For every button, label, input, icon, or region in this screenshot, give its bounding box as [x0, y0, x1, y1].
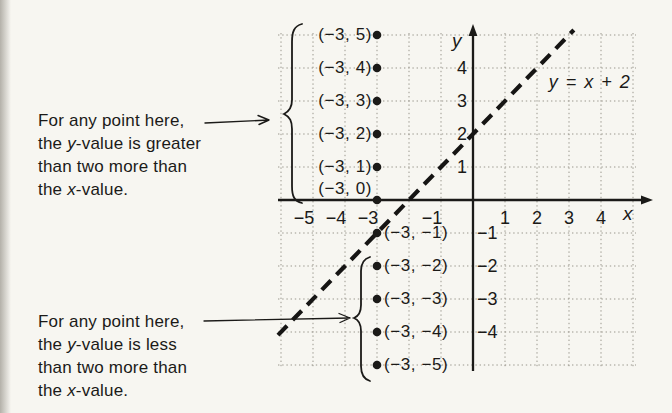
note-upper: For any point here,the y-value is greate…: [38, 109, 243, 201]
point-label: (−3, 1): [318, 156, 372, 178]
note-line: than two more than: [38, 356, 243, 379]
note-line: the y-value is greater: [38, 132, 243, 155]
note-line: the y-value is less: [38, 333, 243, 356]
y-tick-label: −2: [477, 255, 498, 277]
y-tick-label: −3: [477, 288, 498, 310]
y-tick-label: −1: [477, 222, 498, 244]
note-line: the x-value.: [38, 379, 243, 402]
chart-labels: y = x + 2 x y For any point here,the y-v…: [0, 0, 672, 413]
x-tick-label: −1: [422, 207, 443, 229]
point-label: (−3, −2): [384, 255, 448, 277]
note-line: For any point here,: [38, 310, 243, 333]
point-label: (−3, 4): [318, 57, 372, 79]
y-tick-label: 1: [457, 156, 467, 178]
x-tick-label: 3: [564, 207, 574, 229]
point-label: (−3, 3): [318, 90, 372, 112]
y-tick-label: −4: [477, 321, 498, 343]
x-tick-label: −5: [294, 207, 315, 229]
point-label: (−3, −4): [384, 321, 448, 343]
point-label: (−3, 2): [318, 123, 372, 145]
y-tick-label: 4: [457, 57, 467, 79]
x-tick-label: 4: [596, 207, 606, 229]
x-tick-label: 1: [500, 207, 510, 229]
y-axis-label: y: [452, 30, 462, 52]
note-line: than two more than: [38, 155, 243, 178]
x-tick-label: −3: [358, 207, 379, 229]
point-label: (−3, 0): [318, 178, 372, 200]
x-tick-label: −4: [326, 207, 347, 229]
line-equation-label: y = x + 2: [538, 72, 642, 93]
point-label: (−3, −5): [384, 354, 448, 376]
figure: y = x + 2 x y For any point here,the y-v…: [0, 0, 672, 413]
note-lower: For any point here,the y-value is lessth…: [38, 310, 243, 402]
x-axis-label: x: [623, 203, 633, 225]
point-label: (−3, 5): [318, 24, 372, 46]
note-line: For any point here,: [38, 109, 243, 132]
note-line: the x-value.: [38, 178, 243, 201]
page-edge-shadow: [0, 0, 11, 413]
point-label: (−3, −3): [384, 288, 448, 310]
y-tick-label: 3: [457, 90, 467, 112]
x-tick-label: 2: [532, 207, 542, 229]
y-tick-label: 2: [457, 123, 467, 145]
